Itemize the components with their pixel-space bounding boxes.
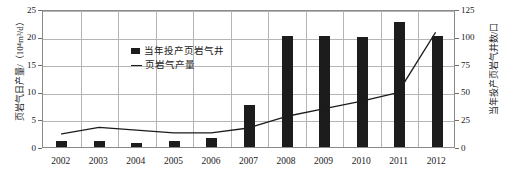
- y-axis-left-tick-label: 0: [6, 144, 36, 153]
- y-axis-left-tick-label: 15: [6, 61, 36, 70]
- legend: 当年投产页岩气井 页岩气产量: [131, 44, 224, 72]
- y-axis-right-tick-label: 100: [461, 33, 495, 42]
- y-axis-right-tick-label: 25: [461, 116, 495, 125]
- legend-item-bar: 当年投产页岩气井: [131, 44, 224, 58]
- y-axis-left-tick-label: 20: [6, 33, 36, 42]
- legend-bar-swatch-icon: [131, 48, 140, 54]
- legend-item-line-label: 页岩气产量: [145, 58, 195, 72]
- legend-item-line: 页岩气产量: [131, 58, 224, 72]
- y-axis-right-tick-mark: [455, 120, 459, 121]
- y-axis-right-tick-label: 0: [461, 144, 495, 153]
- chart-figure: 页岩气日产量/（10⁴m³/d） 当年投产页岩气井数/口 0510152025 …: [0, 0, 514, 183]
- y-axis-left-tick-mark: [38, 148, 42, 149]
- y-axis-right-tick-label: 50: [461, 88, 495, 97]
- y-axis-right-tick-mark: [455, 65, 459, 66]
- y-axis-right-tick-mark: [455, 93, 459, 94]
- y-axis-right-tick-label: 75: [461, 61, 495, 70]
- y-axis-right-tick-mark: [455, 38, 459, 39]
- legend-line-swatch-icon: [131, 65, 142, 66]
- y-axis-right-tick-label: 125: [461, 6, 495, 15]
- y-axis-left-tick-label: 25: [6, 6, 36, 15]
- line-series: [43, 11, 454, 147]
- x-axis-tick-label: 2012: [414, 157, 458, 166]
- y-axis-left-tick-label: 5: [6, 116, 36, 125]
- plot-area: 当年投产页岩气井 页岩气产量: [42, 10, 455, 148]
- y-axis-right-tick-mark: [455, 10, 459, 11]
- line-series-path: [62, 33, 436, 134]
- legend-item-bar-label: 当年投产页岩气井: [144, 44, 224, 58]
- y-axis-left-tick-label: 10: [6, 88, 36, 97]
- y-axis-right-tick-mark: [455, 148, 459, 149]
